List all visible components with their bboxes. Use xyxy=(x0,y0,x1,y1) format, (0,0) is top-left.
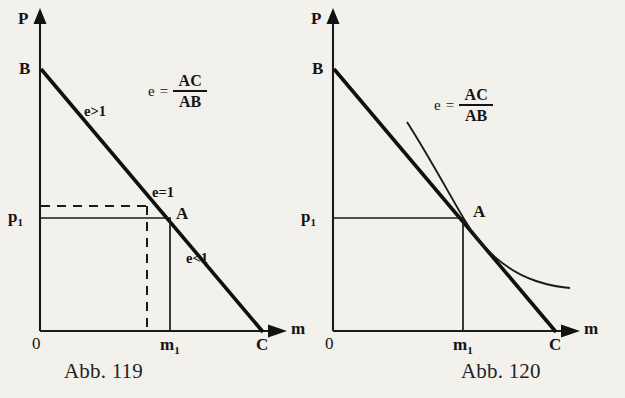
diagram-abb-120 xyxy=(327,8,581,338)
x-axis-arrowhead-120 xyxy=(561,325,580,338)
m1-base-119: m xyxy=(160,335,174,354)
y-axis-label-120: P xyxy=(311,10,321,27)
formula-equals-119: = xyxy=(160,83,168,100)
m1-subscript-120: 1 xyxy=(467,344,473,356)
formula-numerator-119: AC xyxy=(176,72,205,90)
formula-equals-120: = xyxy=(446,97,454,114)
formula-fraction-120: AC AB xyxy=(459,86,493,125)
formula-denominator-119: AB xyxy=(176,92,204,110)
formula-numerator-120: AC xyxy=(462,86,491,104)
caption-abb-119: Abb. 119 xyxy=(64,359,143,384)
point-label-b-120: B xyxy=(312,60,323,77)
point-label-b-119: B xyxy=(19,60,30,77)
convex-demand-curve-120 xyxy=(407,122,570,288)
p1-subscript-119: 1 xyxy=(17,216,23,228)
m1-base-120: m xyxy=(453,335,467,354)
figure-root: P m B A C 0 p1 m1 e>1 e=1 e<1 e = AC AB … xyxy=(0,0,625,398)
y-axis-label-119: P xyxy=(18,10,28,27)
annotation-unit-elastic-119: e=1 xyxy=(152,185,174,200)
point-label-c-119: C xyxy=(256,336,268,353)
price-axis-label-p1-120: p1 xyxy=(301,208,316,228)
annotation-inelastic-119: e<1 xyxy=(186,251,208,266)
origin-label-119: 0 xyxy=(32,335,41,352)
quantity-axis-label-m1-120: m1 xyxy=(453,336,473,356)
origin-label-120: 0 xyxy=(325,335,334,352)
point-label-a-120: A xyxy=(473,203,485,220)
formula-denominator-120: AB xyxy=(462,106,490,124)
elasticity-formula-120: e = AC AB xyxy=(434,86,493,125)
y-axis-arrowhead-120 xyxy=(327,8,340,24)
diagram-abb-119 xyxy=(34,8,288,338)
caption-abb-120: Abb. 120 xyxy=(461,359,541,384)
point-label-c-120: C xyxy=(549,336,561,353)
x-axis-label-120: m xyxy=(584,320,598,337)
annotation-elastic-119: e>1 xyxy=(84,104,106,119)
point-label-a-119: A xyxy=(176,205,188,222)
formula-variable-120: e xyxy=(434,97,441,114)
p1-subscript-120: 1 xyxy=(310,216,316,228)
x-axis-label-119: m xyxy=(291,320,305,337)
price-axis-label-p1-119: p1 xyxy=(8,208,23,228)
x-axis-arrowhead-119 xyxy=(268,325,287,338)
y-axis-arrowhead-119 xyxy=(34,8,47,24)
m1-subscript-119: 1 xyxy=(174,344,180,356)
formula-variable-119: e xyxy=(148,83,155,100)
quantity-axis-label-m1-119: m1 xyxy=(160,336,180,356)
elasticity-formula-119: e = AC AB xyxy=(148,72,207,111)
formula-fraction-119: AC AB xyxy=(173,72,207,111)
